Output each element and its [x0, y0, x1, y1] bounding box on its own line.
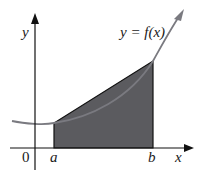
shaded-trapezoid: [54, 61, 153, 148]
tick-label-b: b: [148, 149, 156, 165]
trapezoid-diagram: y x 0 a b y = f(x): [0, 0, 207, 176]
function-label: y = f(x): [118, 24, 165, 41]
origin-label: 0: [22, 149, 30, 165]
diagram-svg: y x 0 a b y = f(x): [0, 0, 207, 176]
y-axis-label: y: [20, 24, 29, 40]
curve-arrowhead-icon: [174, 9, 184, 21]
y-axis-arrow-icon: [31, 13, 39, 24]
x-axis-label: x: [174, 149, 182, 165]
tick-label-a: a: [50, 149, 58, 165]
x-axis-arrow-icon: [184, 144, 194, 152]
